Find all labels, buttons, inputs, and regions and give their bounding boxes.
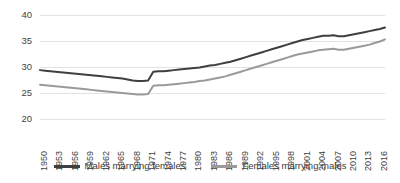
y-axis-tick-label: 35 (0, 36, 32, 46)
legend-swatch-icon (54, 165, 80, 168)
legend-label: Females marrying males (242, 161, 346, 171)
y-axis-tick-label: 25 (0, 88, 32, 98)
y-axis: 2025303540 (0, 0, 36, 183)
legend-label: Males marrying females (85, 161, 186, 171)
y-axis-tick-label: 30 (0, 62, 32, 72)
legend-swatch-icon (211, 165, 237, 168)
chart-legend: Males marrying femalesFemales marrying m… (0, 158, 400, 174)
gridline (40, 119, 385, 120)
y-axis-tick-label: 40 (0, 10, 32, 20)
series-lines (40, 15, 385, 119)
series-line-2 (40, 39, 385, 94)
y-axis-tick-label: 20 (0, 114, 32, 124)
chart-container: 2025303540 19501953195619591962196519681… (0, 0, 400, 183)
legend-item-1[interactable]: Males marrying females (54, 161, 186, 171)
series-line-1 (40, 27, 385, 81)
x-axis: 1950195319561959196219651968197119741977… (40, 121, 385, 153)
legend-item-2[interactable]: Females marrying males (211, 161, 346, 171)
plot-area (40, 15, 385, 119)
